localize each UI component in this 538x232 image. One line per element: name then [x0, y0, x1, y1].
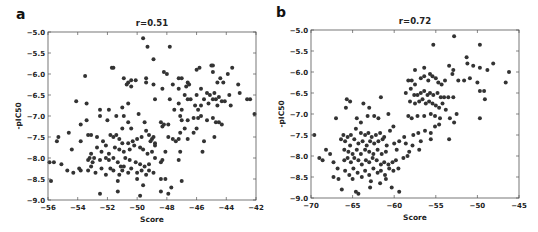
- data-point: [89, 164, 93, 168]
- data-point: [369, 179, 373, 183]
- data-point: [379, 169, 383, 173]
- data-point: [126, 120, 130, 124]
- x-tick-label: −42: [248, 204, 264, 212]
- data-point: [397, 139, 401, 143]
- data-point: [347, 173, 351, 177]
- data-point: [355, 116, 359, 120]
- data-point: [367, 173, 371, 177]
- data-point: [371, 152, 375, 156]
- data-point: [163, 150, 167, 154]
- x-tick-label: −50: [470, 202, 486, 210]
- data-point: [205, 118, 209, 122]
- data-point: [178, 131, 182, 135]
- data-point: [172, 108, 176, 112]
- data-point: [462, 78, 466, 82]
- data-point: [135, 177, 139, 181]
- data-point: [368, 139, 372, 143]
- y-tick-label: −6.0: [27, 71, 45, 79]
- data-point: [143, 164, 147, 168]
- data-point: [211, 116, 215, 120]
- data-point: [134, 160, 138, 164]
- data-point: [448, 116, 452, 120]
- data-point: [177, 137, 181, 141]
- data-point: [363, 169, 367, 173]
- data-point: [346, 135, 350, 139]
- data-point: [422, 66, 426, 70]
- panel-a: a r=0.51−56−54−52−50−48−46−44−42−5.0−5.5…: [0, 0, 269, 232]
- data-point: [129, 127, 133, 131]
- data-point: [226, 72, 230, 76]
- data-point: [122, 164, 126, 168]
- data-point: [438, 116, 442, 120]
- data-point: [367, 106, 371, 110]
- data-point: [91, 160, 95, 164]
- data-point: [187, 83, 191, 87]
- y-axis-label: -pIC50: [277, 100, 286, 127]
- data-point: [356, 158, 360, 162]
- data-point: [348, 99, 352, 103]
- data-point: [427, 99, 431, 103]
- data-point: [120, 169, 124, 173]
- data-point: [468, 76, 472, 80]
- data-point: [317, 156, 321, 160]
- chart-title: r=0.51: [136, 18, 168, 28]
- data-point: [324, 148, 328, 152]
- data-point: [218, 76, 222, 80]
- data-point: [230, 66, 234, 70]
- data-point: [177, 87, 181, 91]
- data-point: [79, 139, 83, 143]
- data-point: [421, 97, 425, 101]
- data-point: [180, 179, 184, 183]
- data-point: [123, 156, 127, 160]
- data-point: [452, 34, 456, 38]
- data-point: [434, 76, 438, 80]
- data-point: [410, 78, 414, 82]
- data-point: [443, 78, 447, 82]
- data-point: [141, 148, 145, 152]
- data-point: [55, 139, 59, 143]
- data-point: [138, 162, 142, 166]
- data-point: [178, 114, 182, 118]
- data-point: [447, 64, 451, 68]
- data-point: [201, 150, 205, 154]
- data-point: [404, 91, 408, 95]
- data-point: [413, 68, 417, 72]
- data-point: [465, 62, 469, 66]
- data-point: [422, 89, 426, 93]
- data-point: [98, 158, 102, 162]
- data-point: [391, 160, 395, 164]
- data-point: [456, 78, 460, 82]
- data-point: [406, 78, 410, 82]
- data-point: [442, 95, 446, 99]
- data-point: [134, 78, 138, 82]
- data-point: [376, 171, 380, 175]
- data-point: [451, 95, 455, 99]
- data-point: [160, 87, 164, 91]
- data-point: [367, 150, 371, 154]
- data-point: [198, 66, 202, 70]
- data-point: [160, 125, 164, 129]
- data-point: [431, 74, 435, 78]
- data-point: [416, 114, 420, 118]
- data-point: [199, 87, 203, 91]
- data-point: [366, 114, 370, 118]
- data-point: [366, 131, 370, 135]
- data-point: [144, 173, 148, 177]
- data-point: [129, 78, 133, 82]
- data-point: [397, 190, 401, 194]
- data-point: [144, 80, 148, 84]
- data-point: [431, 102, 435, 106]
- data-point: [223, 99, 227, 103]
- data-point: [144, 76, 148, 80]
- y-tick-label: −6.5: [27, 92, 45, 100]
- data-point: [89, 133, 93, 137]
- data-point: [381, 137, 385, 141]
- data-point: [411, 144, 415, 148]
- data-point: [186, 137, 190, 141]
- data-point: [166, 192, 170, 196]
- y-tick-label: −6.5: [290, 90, 308, 98]
- data-point: [361, 102, 365, 106]
- x-tick-label: −45: [511, 202, 527, 210]
- data-point: [105, 118, 109, 122]
- data-point: [168, 45, 172, 49]
